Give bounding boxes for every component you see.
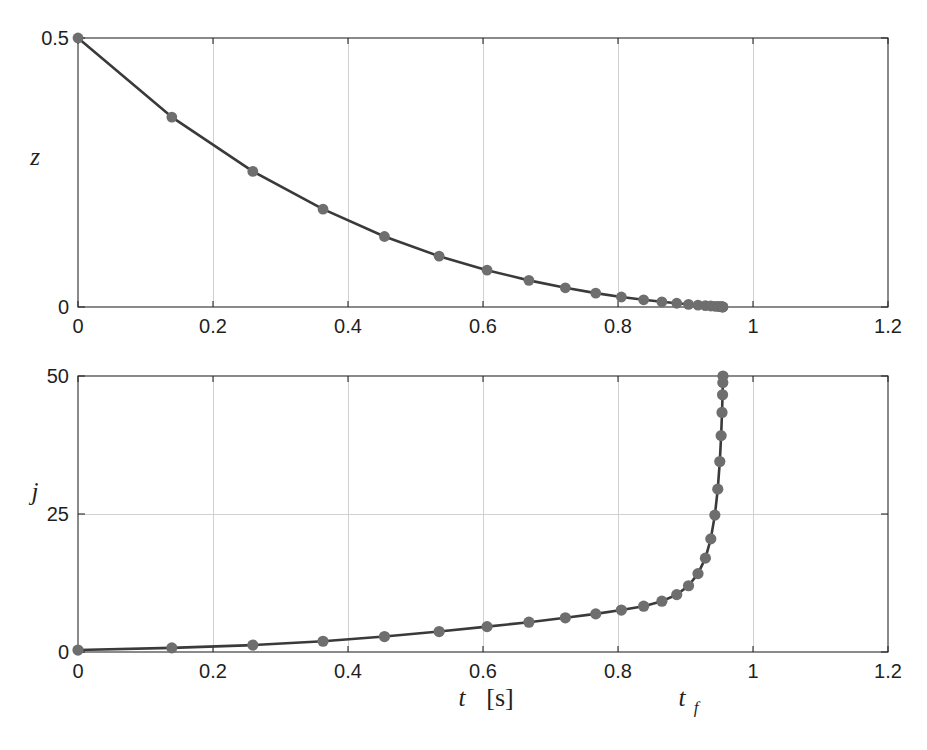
- x-tick-label: 0: [72, 315, 83, 337]
- data-point-marker: [700, 553, 711, 564]
- top-panel-x-tick-labels: 00.20.40.60.811.2: [72, 315, 901, 337]
- data-point-marker: [560, 612, 571, 623]
- data-point-marker: [524, 275, 535, 286]
- data-point-marker: [714, 456, 725, 467]
- x-tick-label: 1: [747, 660, 758, 682]
- x-tick-label: 0.2: [199, 315, 227, 337]
- data-point-marker: [73, 33, 84, 44]
- x-axis-label-t: t: [459, 684, 467, 711]
- top-panel-data-markers: [73, 33, 729, 313]
- data-point-marker: [709, 509, 720, 520]
- top-panel-data-line: [78, 38, 723, 307]
- data-point-marker: [656, 596, 667, 607]
- top-panel-y-axis-label: z: [29, 143, 40, 170]
- bottom-panel-gridlines: [78, 376, 888, 652]
- data-point-marker: [481, 621, 492, 632]
- data-point-marker: [638, 601, 649, 612]
- x-tick-label: 0.6: [469, 660, 497, 682]
- data-point-marker: [712, 484, 723, 495]
- data-point-marker: [590, 608, 601, 619]
- tf-subscript: f: [694, 698, 701, 717]
- data-point-marker: [434, 251, 445, 262]
- data-point-marker: [671, 589, 682, 600]
- x-tick-label: 0: [72, 660, 83, 682]
- data-point-marker: [683, 580, 694, 591]
- top-panel: 00.20.40.60.811.2 00.5 z: [29, 27, 902, 337]
- y-tick-label: 50: [47, 365, 69, 387]
- figure-container: 00.20.40.60.811.2 00.5 z 00.20.40.60.811…: [0, 0, 927, 750]
- x-tick-label: 0.8: [604, 660, 632, 682]
- data-point-marker: [590, 288, 601, 299]
- tf-symbol: t: [679, 684, 687, 711]
- data-point-marker: [247, 640, 258, 651]
- tf-annotation: t f: [679, 684, 701, 717]
- data-point-marker: [692, 568, 703, 579]
- data-point-marker: [656, 296, 667, 307]
- data-point-marker: [717, 389, 728, 400]
- data-point-marker: [166, 112, 177, 123]
- x-tick-label: 0.8: [604, 315, 632, 337]
- x-tick-label: 0.4: [334, 315, 362, 337]
- x-tick-label: 0.4: [334, 660, 362, 682]
- data-point-marker: [318, 204, 329, 215]
- data-point-marker: [616, 292, 627, 303]
- x-tick-label: 1: [747, 315, 758, 337]
- plot-canvas: 00.20.40.60.811.2 00.5 z 00.20.40.60.811…: [0, 0, 927, 750]
- x-tick-label: 0.6: [469, 315, 497, 337]
- data-point-marker: [671, 298, 682, 309]
- data-point-marker: [616, 604, 627, 615]
- bottom-panel-y-axis-label: j: [29, 478, 39, 505]
- data-point-marker: [705, 533, 716, 544]
- data-point-marker: [482, 265, 493, 276]
- data-point-marker: [379, 631, 390, 642]
- x-tick-label: 1.2: [874, 315, 902, 337]
- data-point-marker: [166, 642, 177, 653]
- bottom-panel-data-markers: [72, 370, 728, 655]
- y-tick-label: 0: [58, 641, 69, 663]
- data-point-marker: [638, 294, 649, 305]
- data-point-marker: [247, 166, 258, 177]
- y-tick-label: 0: [58, 296, 69, 318]
- data-point-marker: [317, 636, 328, 647]
- top-panel-y-tick-labels: 00.5: [41, 27, 69, 318]
- y-tick-label: 25: [47, 503, 69, 525]
- data-point-marker: [716, 407, 727, 418]
- bottom-panel: 00.20.40.60.811.2 02550 j: [29, 365, 902, 682]
- data-point-marker: [718, 302, 729, 313]
- x-axis-label-group: t [s]: [459, 683, 514, 712]
- data-point-marker: [716, 430, 727, 441]
- data-point-marker: [379, 231, 390, 242]
- data-point-marker: [560, 282, 571, 293]
- data-point-marker: [683, 299, 694, 310]
- data-point-marker: [717, 370, 728, 381]
- x-tick-label: 1.2: [874, 660, 902, 682]
- x-axis-label-unit: [s]: [486, 683, 513, 712]
- data-point-marker: [434, 626, 445, 637]
- x-tick-label: 0.2: [199, 660, 227, 682]
- bottom-panel-x-tick-labels: 00.20.40.60.811.2: [72, 660, 901, 682]
- y-tick-label: 0.5: [41, 27, 69, 49]
- data-point-marker: [72, 644, 83, 655]
- data-point-marker: [523, 617, 534, 628]
- bottom-panel-y-tick-labels: 02550: [47, 365, 69, 663]
